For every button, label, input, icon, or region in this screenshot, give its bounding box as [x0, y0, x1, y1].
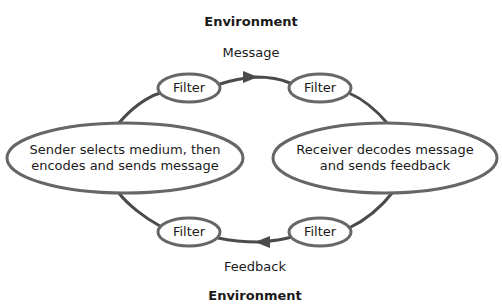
receiver-label-line2: and sends feedback	[273, 158, 497, 174]
sender-label: Sender selects medium, then encodes and …	[7, 142, 243, 174]
connector-sender-to-top-left-filter	[118, 93, 160, 124]
feedback-label: Feedback	[0, 259, 502, 274]
sender-label-line1: Sender selects medium, then	[7, 142, 243, 158]
environment-top-label: Environment	[0, 14, 502, 29]
filter-top-right-label: Filter	[288, 80, 352, 95]
environment-bottom-label: Environment	[0, 288, 502, 303]
connector-top-right-filter-to-receiver	[349, 93, 388, 124]
feedback-arrowhead	[255, 236, 270, 248]
sender-label-line2: encodes and sends message	[7, 158, 243, 174]
message-arrowhead	[243, 71, 258, 83]
connector-sender-to-bottom-left-filter	[118, 192, 160, 226]
receiver-label-line1: Receiver decodes message	[273, 142, 497, 158]
receiver-label: Receiver decodes message and sends feedb…	[273, 142, 497, 174]
connector-bottom-filters-feedback-path	[218, 237, 292, 242]
connector-receiver-to-bottom-right-filter	[349, 192, 393, 228]
filter-bottom-right-label: Filter	[288, 224, 352, 239]
filter-top-left-label: Filter	[157, 80, 221, 95]
filter-bottom-left-label: Filter	[157, 224, 221, 239]
message-label: Message	[0, 45, 502, 60]
